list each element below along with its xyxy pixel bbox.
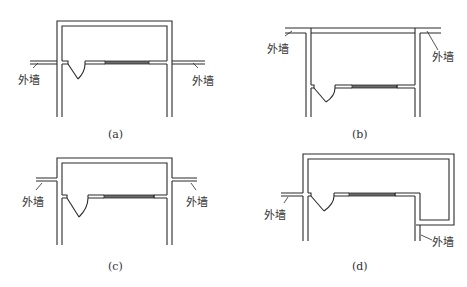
exterior-wall-label-left-a: 外墙 xyxy=(18,73,40,87)
exterior-wall-label-left-d: 外墙 xyxy=(264,208,286,222)
caption-b: (b) xyxy=(352,128,368,141)
exterior-wall-label-left-c: 外墙 xyxy=(22,195,44,209)
exterior-wall-label-left-b: 外墙 xyxy=(267,42,289,56)
panel-a: 外墙 外墙 (a) xyxy=(18,21,214,141)
panel-c: 外墙 外墙 (c) xyxy=(22,158,208,273)
exterior-wall-label-right-c: 外墙 xyxy=(186,195,208,209)
caption-d: (d) xyxy=(352,260,368,273)
exterior-wall-label-right-d: 外墙 xyxy=(432,235,454,249)
exterior-wall-label-right-b: 外墙 xyxy=(432,50,454,64)
floor-plan-figure: 外墙 外墙 (a) 外墙 外墙 (b) xyxy=(0,0,467,287)
caption-a: (a) xyxy=(108,128,123,141)
panel-d: 外墙 外墙 (d) xyxy=(264,154,454,273)
panel-b: 外墙 外墙 (b) xyxy=(267,28,454,141)
exterior-wall-label-right-a: 外墙 xyxy=(192,74,214,88)
caption-c: (c) xyxy=(108,260,123,273)
